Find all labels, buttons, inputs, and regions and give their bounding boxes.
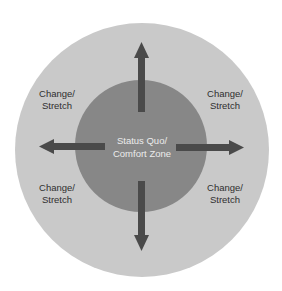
zone-label-bottom-left: Change/ Stretch (27, 182, 87, 206)
zone-label-line1: Change/ (195, 88, 255, 100)
zone-label-line2: Stretch (27, 100, 87, 112)
center-label-comfort-zone: Status Quo/ Comfort Zone (96, 134, 188, 160)
zone-label-line2: Stretch (195, 194, 255, 206)
zone-label-line1: Change/ (27, 182, 87, 194)
zone-label-top-left: Change/ Stretch (27, 88, 87, 112)
zone-label-line2: Stretch (195, 100, 255, 112)
zone-label-top-right: Change/ Stretch (195, 88, 255, 112)
zone-label-line1: Change/ (27, 88, 87, 100)
center-label-line1: Status Quo/ (96, 134, 188, 147)
zone-label-line2: Stretch (27, 194, 87, 206)
zone-label-line1: Change/ (195, 182, 255, 194)
center-label-line2: Comfort Zone (96, 147, 188, 160)
zone-label-bottom-right: Change/ Stretch (195, 182, 255, 206)
